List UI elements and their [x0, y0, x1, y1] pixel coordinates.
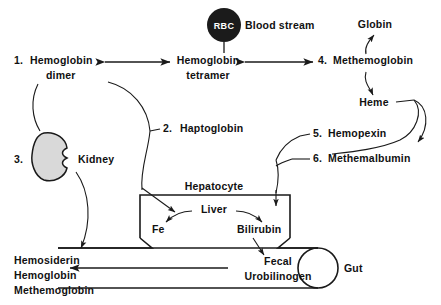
methemoglobin-to-heme-arrow: [365, 72, 373, 95]
blood-stream-label: Blood stream: [245, 19, 315, 31]
haptoglobin-label: Haptoglobin: [180, 122, 243, 134]
methemoglobin-number: 4.: [318, 54, 327, 66]
kidney-number: 3.: [14, 153, 23, 165]
haptoglobin-down-curve: [142, 131, 150, 190]
kidney-label: Kidney: [78, 153, 114, 165]
heme-label: Heme: [359, 96, 388, 108]
hemoglobin-dimer-number: 1.: [14, 54, 23, 66]
methemalbumin-converge-curve: [276, 159, 292, 166]
haptoglobin-number: 2.: [163, 122, 172, 134]
hemoglobin-tetramer-label-1: Hemoglobin: [177, 54, 240, 66]
methemalbumin-number: 6.: [313, 152, 322, 164]
hepatocyte-label: Hepatocyte: [185, 180, 244, 192]
hemopexin-number: 5.: [313, 127, 322, 139]
bilirubin-label: Bilirubin: [237, 223, 281, 235]
haptoglobin-leader-line: [150, 129, 160, 131]
gut-label: Gut: [344, 262, 363, 274]
excretion-label-1: Hemosiderin: [14, 254, 80, 266]
excretion-label-3: Methemoglobin: [14, 284, 94, 296]
heme-to-methemalbumin-curve: [414, 100, 426, 142]
pathway-diagram: RBC Blood stream Hemoglobin tetramer 1. …: [0, 0, 441, 305]
hemoglobin-dimer-label-2: dimer: [46, 69, 76, 81]
excretion-label-2: Hemoglobin: [14, 269, 77, 281]
hemoglobin-tetramer-label-2: tetramer: [186, 69, 230, 81]
dimer-to-kidney-curve: [33, 84, 40, 131]
fecal-urobilinogen-label-2: Urobilinogen: [244, 270, 311, 282]
gut-end-ellipse: [298, 248, 338, 288]
methemalbumin-label: Methemalbumin: [328, 152, 411, 164]
hepatocyte-right-tab: [278, 238, 318, 248]
methemoglobin-to-globin-arrow: [366, 35, 374, 54]
hemopexin-leader-line: [300, 134, 310, 136]
hepatocyte-left-tab: [58, 238, 152, 248]
dimer-to-haptoglobin-curve: [108, 82, 150, 131]
fe-label: Fe: [152, 223, 165, 235]
liver-label: Liver: [201, 203, 227, 215]
rbc-label: RBC: [214, 21, 235, 31]
kidney-shape: [32, 133, 67, 181]
fecal-urobilinogen-label-1: Fecal: [264, 255, 292, 267]
hemopexin-label: Hemopexin: [328, 127, 386, 139]
kidney-to-excretion-arrow: [76, 172, 88, 248]
heme-tail-line: [396, 100, 414, 102]
hemoglobin-dimer-label-1: Hemoglobin: [30, 54, 93, 66]
globin-label: Globin: [358, 18, 392, 30]
hemopexin-converge-curve: [276, 136, 300, 160]
liver-to-bilirubin-arrow: [236, 211, 262, 222]
liver-to-fe-arrow: [166, 211, 192, 222]
haptoglobin-into-hepatocyte-arrow: [142, 188, 175, 212]
pathway-svg: RBC Blood stream Hemoglobin tetramer 1. …: [0, 0, 441, 305]
methemoglobin-label: Methemoglobin: [333, 54, 413, 66]
bilirubin-to-fecal-arrow: [253, 238, 264, 255]
